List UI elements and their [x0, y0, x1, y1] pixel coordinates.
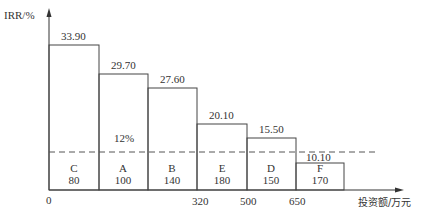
irr-label-d: 15.50: [259, 123, 284, 135]
project-amount-e: 180: [214, 174, 231, 186]
project-name-b: B: [168, 162, 175, 174]
project-amount-f: 170: [312, 174, 329, 186]
irr-label-a: 29.70: [111, 59, 136, 71]
x-tick-500: 500: [240, 195, 257, 207]
x-tick-320: 320: [192, 195, 209, 207]
project-amount-c: 80: [69, 174, 81, 186]
irr-label-c: 33.90: [61, 30, 86, 42]
project-amount-a: 100: [115, 174, 132, 186]
y-axis-label: IRR/%: [4, 9, 35, 21]
project-amount-b: 140: [164, 174, 181, 186]
x-axis-label: 投资额/万元: [358, 196, 411, 208]
irr-label-e: 20.10: [209, 109, 234, 121]
project-name-c: C: [70, 162, 77, 174]
x-tick-0: 0: [46, 194, 52, 206]
irr-label-b: 27.60: [160, 73, 185, 85]
x-tick-650: 650: [289, 195, 306, 207]
y-axis-arrow-icon: [47, 8, 52, 17]
hurdle-rate-label: 12%: [114, 132, 134, 144]
irr-investment-chart: IRR/% 投资额/万元 0 320 500 650 33.90 29.70 2…: [0, 0, 423, 219]
project-name-a: A: [119, 162, 127, 174]
project-amount-d: 150: [263, 174, 280, 186]
project-name-d: D: [267, 162, 275, 174]
project-name-f: F: [317, 162, 323, 174]
project-name-e: E: [219, 162, 226, 174]
x-axis-arrow-icon: [395, 188, 404, 193]
